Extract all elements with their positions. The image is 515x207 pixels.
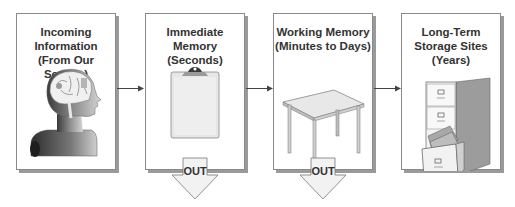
out-label-immediate: OUT [170, 165, 220, 177]
flow-arrow-incoming-to-immediate [117, 84, 145, 93]
memory-model-diagram: Incoming Information (From Our Senses) [0, 0, 515, 207]
stage-incoming-box: Incoming Information (From Our Senses) [16, 13, 116, 170]
flow-arrow-working-to-longterm [374, 84, 402, 93]
out-arrow-working: OUT [298, 157, 348, 201]
human-head-brain-icon [17, 14, 117, 171]
file-cabinet-icon [402, 14, 502, 171]
flow-arrow-immediate-to-working [246, 84, 274, 93]
stage-working-box: Working Memory (Minutes to Days) [273, 13, 373, 170]
out-label-working: OUT [298, 165, 348, 177]
stage-immediate-box: Immediate Memory (Seconds) [145, 13, 245, 170]
out-arrow-immediate: OUT [170, 157, 220, 201]
clipboard-icon [146, 14, 246, 171]
stage-longterm-box: Long-Term Storage Sites (Years) [401, 13, 501, 170]
table-icon [274, 14, 374, 171]
